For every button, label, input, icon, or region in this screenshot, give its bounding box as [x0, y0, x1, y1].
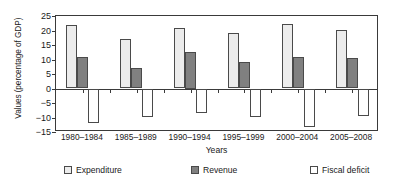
chart-legend: ExpenditureRevenueFiscal deficit [55, 166, 385, 180]
x-axis-tick-label: 1985–1989 [115, 133, 157, 141]
y-axis-tick-label: 0 [46, 84, 51, 93]
bar-fiscal-deficit [196, 89, 207, 114]
x-axis-tick-minor [352, 89, 353, 93]
bar-group [271, 16, 325, 130]
bar-fiscal-deficit [142, 89, 153, 117]
bar-expenditure [120, 39, 131, 88]
legend-label: Fiscal deficit [322, 166, 369, 175]
legend-label: Revenue [203, 166, 237, 175]
x-axis-tick-label: 1980–1984 [61, 133, 103, 141]
bar-revenue [293, 57, 304, 88]
bar-expenditure [174, 28, 185, 89]
bar-revenue [347, 58, 358, 89]
x-axis-tick-label: 2000–2004 [276, 133, 318, 141]
x-axis-tick [271, 89, 272, 93]
x-axis-tick-minor [298, 89, 299, 93]
plot-area: 2520151050−5−10−15 [55, 15, 378, 131]
bar-group [56, 16, 110, 130]
bar-group [164, 16, 218, 130]
bar-expenditure [336, 30, 347, 89]
bar-revenue [131, 68, 142, 89]
legend-label: Expenditure [76, 166, 122, 175]
x-axis-tick-labels: 1980–19841985–19891990–19941995–19992000… [55, 133, 378, 145]
bar-fiscal-deficit [250, 89, 261, 117]
x-axis-tick-minor [244, 89, 245, 93]
x-axis-tick-label: 2005–2008 [330, 133, 372, 141]
x-axis-tick [110, 89, 111, 93]
bar-revenue [185, 52, 196, 88]
legend-swatch-icon [64, 166, 72, 174]
legend-item-fiscal-deficit[interactable]: Fiscal deficit [310, 166, 369, 175]
x-axis-tick-minor [83, 89, 84, 93]
bar-group [110, 16, 164, 130]
y-axis-tick-label: 15 [41, 41, 51, 50]
y-axis-tick-label: 20 [41, 26, 51, 35]
x-axis-tick-label: 1990–1994 [169, 133, 211, 141]
bar-group [325, 16, 379, 130]
bar-expenditure [66, 25, 77, 89]
x-axis-tick [218, 89, 219, 93]
x-axis-tick-minor [191, 89, 192, 93]
legend-swatch-icon [191, 166, 199, 174]
bar-revenue [77, 57, 88, 88]
bar-fiscal-deficit [88, 89, 99, 123]
legend-item-revenue[interactable]: Revenue [191, 166, 237, 175]
bar-chart-figure: Values (percentage of GDP) 2520151050−5−… [0, 0, 397, 189]
y-axis-tick-label: 10 [41, 55, 51, 64]
bar-expenditure [228, 33, 239, 88]
legend-item-expenditure[interactable]: Expenditure [64, 166, 122, 175]
x-axis-tick-minor [137, 89, 138, 93]
bar-fiscal-deficit [358, 89, 369, 117]
x-axis-tick [164, 89, 165, 93]
x-axis-tick [325, 89, 326, 93]
y-axis-tick-label: 5 [46, 70, 51, 79]
y-axis-title: Values (percentage of GDP) [14, 0, 22, 144]
bar-expenditure [282, 24, 293, 88]
legend-swatch-icon [310, 166, 318, 174]
y-axis-tick-label: −5 [41, 99, 51, 108]
y-axis-tick-label: −15 [36, 128, 51, 137]
bar-revenue [239, 62, 250, 89]
y-axis-tick-label: 25 [41, 12, 51, 21]
x-axis-title: Years [55, 146, 378, 155]
y-axis-tick-label: −10 [36, 113, 51, 122]
bar-group [218, 16, 272, 130]
x-axis-tick-label: 1995–1999 [222, 133, 264, 141]
bar-fiscal-deficit [304, 89, 315, 128]
